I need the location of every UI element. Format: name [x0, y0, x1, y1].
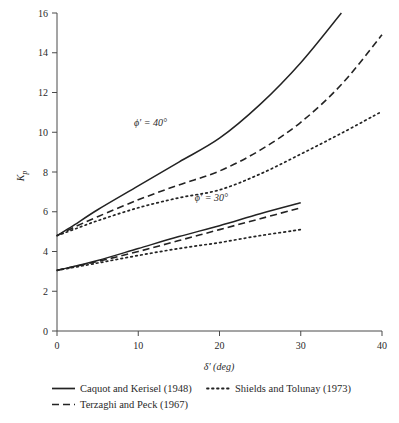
curve-series-5 — [57, 230, 301, 271]
x-tick-label: 30 — [296, 340, 306, 351]
legend-entry-1: Terzaghi and Peck (1967) — [52, 399, 189, 411]
x-axis-title: δ′ (deg) — [204, 361, 235, 373]
y-tick-label: 14 — [38, 47, 48, 58]
y-axis-ticks: 0246810121416 — [38, 8, 57, 337]
y-tick-label: 8 — [43, 167, 48, 178]
y-tick-label: 6 — [43, 206, 48, 217]
x-tick-label: 20 — [215, 340, 225, 351]
legend: Caquot and Kerisel (1948)Terzaghi and Pe… — [52, 383, 352, 411]
y-tick-label: 0 — [43, 326, 48, 337]
legend-entry-0: Caquot and Kerisel (1948) — [52, 383, 192, 395]
axes-group — [57, 13, 382, 331]
y-tick-label: 10 — [38, 127, 48, 138]
curve-series-2 — [57, 111, 382, 235]
x-tick-label: 10 — [133, 340, 143, 351]
y-axis-title-subscript: p — [20, 171, 29, 176]
svg-text:Kp: Kp — [15, 171, 29, 183]
y-axis-title: Kp — [15, 171, 29, 183]
legend-entry-2: Shields and Tolunay (1973) — [207, 383, 352, 395]
y-tick-label: 12 — [38, 87, 48, 98]
y-tick-label: 16 — [38, 8, 48, 19]
legend-label: Terzaghi and Peck (1967) — [80, 399, 189, 411]
legend-label: Shields and Tolunay (1973) — [235, 383, 352, 395]
x-tick-label: 40 — [377, 340, 387, 351]
x-tick-label: 0 — [55, 340, 60, 351]
x-axis-ticks: 010203040 — [55, 331, 388, 351]
kp-vs-delta-chart: 0246810121416 010203040 ϕ′ = 40°ϕ′ = 30°… — [0, 0, 399, 423]
y-tick-label: 2 — [43, 286, 48, 297]
legend-label: Caquot and Kerisel (1948) — [80, 383, 192, 395]
y-tick-label: 4 — [43, 246, 48, 257]
chart-figure: 0246810121416 010203040 ϕ′ = 40°ϕ′ = 30°… — [0, 0, 399, 423]
annotation-phi-1: ϕ′ = 30° — [195, 192, 228, 203]
annotation-phi-0: ϕ′ = 40° — [134, 117, 167, 128]
data-curves — [57, 13, 382, 270]
